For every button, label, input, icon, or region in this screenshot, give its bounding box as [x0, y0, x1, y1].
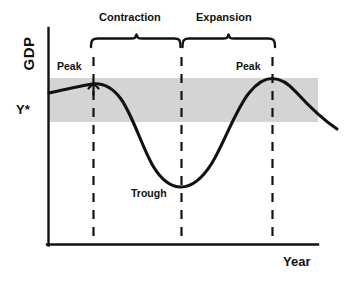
contraction-brace	[91, 35, 181, 48]
x-axis-label: Year	[283, 255, 310, 268]
business-cycle-svg	[0, 0, 350, 281]
peak-second-label: Peak	[236, 61, 261, 72]
y-axis-label: GDP	[21, 24, 36, 84]
business-cycle-figure: GDP Year Y* Peak Peak Trough Contraction…	[0, 0, 350, 281]
expansion-phase-label: Expansion	[196, 12, 252, 23]
peak-first-label: Peak	[57, 61, 82, 72]
contraction-phase-label: Contraction	[99, 12, 161, 23]
trough-label: Trough	[131, 188, 167, 199]
potential-output-label: Y*	[16, 103, 30, 116]
expansion-brace	[183, 35, 276, 48]
